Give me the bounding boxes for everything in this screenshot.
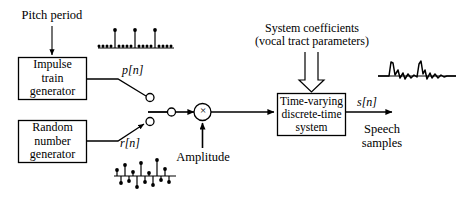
system-coefficients-hollow-arrow — [299, 52, 324, 92]
system-coefficients-label: System coefficients (vocal tract paramet… — [236, 22, 388, 49]
impulse-train-generator-label: Impulse train generator — [18, 57, 87, 100]
system-line-3: system — [296, 121, 328, 134]
random-line-1: Random — [32, 121, 73, 135]
random-line-2: number — [34, 135, 71, 149]
system-coefficients-line-2: (vocal tract parameters) — [236, 35, 388, 48]
impulse-line-1: Impulse — [33, 58, 72, 72]
p-of-n-label: p[n] — [122, 64, 143, 77]
speech-production-model-diagram: Pitch period Impulse train generator Ran… — [0, 0, 462, 204]
switch-terminal-upper[interactable] — [146, 94, 154, 102]
s-of-n-label: s[n] — [357, 96, 377, 109]
system-line-2: discrete-time — [281, 108, 341, 121]
switch-wiper-node[interactable] — [168, 108, 176, 116]
impulse-line-2: train — [42, 72, 64, 86]
impulse-output-wire — [86, 79, 146, 96]
speech-samples-label: Speech samples — [336, 122, 428, 150]
random-line-3: generator — [30, 148, 75, 162]
speech-samples-line-2: samples — [336, 136, 428, 150]
diagram-canvas — [0, 0, 462, 204]
system-line-1: Time-varying — [280, 95, 343, 108]
random-number-generator-label: Random number generator — [18, 120, 87, 163]
system-coefficients-line-1: System coefficients — [236, 22, 388, 35]
impulse-train-waveform — [98, 28, 175, 48]
switch-terminal-lower[interactable] — [146, 118, 154, 126]
r-of-n-label: r[n] — [120, 137, 140, 150]
speech-signal-waveform — [378, 61, 456, 79]
random-noise-waveform — [114, 158, 176, 189]
speech-samples-line-1: Speech — [336, 122, 428, 136]
impulse-line-3: generator — [30, 85, 75, 99]
amplitude-label: Amplitude — [168, 150, 238, 164]
multiplier-symbol: × — [198, 104, 208, 116]
pitch-period-label: Pitch period — [6, 8, 98, 22]
